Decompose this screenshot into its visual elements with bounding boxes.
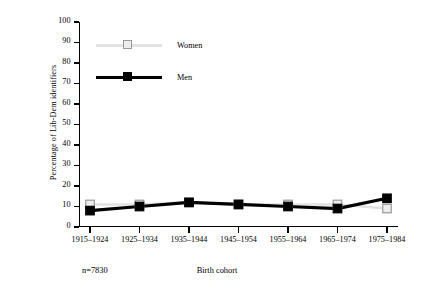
x-tick-label: 1925–1934 [121, 235, 158, 244]
x-tick [89, 227, 90, 233]
data-point-men [383, 194, 392, 203]
y-tick-label: 10 [62, 199, 70, 211]
x-tick-label: 1935–1944 [171, 235, 208, 244]
data-point-men [86, 206, 95, 215]
x-tick-label: 1975–1984 [369, 235, 406, 244]
x-tick [238, 227, 239, 233]
y-tick-label: 50 [62, 117, 70, 129]
x-tick-label: 1955–1964 [270, 235, 307, 244]
legend-label-men: Men [177, 73, 192, 82]
filled-square-icon [123, 72, 132, 81]
x-tick [139, 227, 140, 233]
data-point-men [333, 204, 342, 213]
legend-key-women [96, 38, 162, 52]
x-tick-label: 1915–1924 [72, 235, 109, 244]
chart-container: Percentage of Lib-Dem identifiers 010203… [0, 0, 434, 293]
data-point-men [135, 202, 144, 211]
data-point-men [284, 202, 293, 211]
y-tick-label: 100 [58, 15, 70, 27]
y-tick-label: 20 [62, 179, 70, 191]
legend-key-men [96, 70, 162, 84]
legend-label-women: Women [177, 41, 202, 50]
data-point-men [185, 198, 194, 207]
open-square-icon [123, 40, 132, 49]
y-tick-label: 0 [66, 220, 70, 232]
x-tick [287, 227, 288, 233]
y-tick-label: 30 [62, 158, 70, 170]
y-axis-title: Percentage of Lib-Dem identifiers [49, 13, 58, 233]
x-tick [337, 227, 338, 233]
x-tick [188, 227, 189, 233]
y-tick-label: 60 [62, 97, 70, 109]
y-tick-label: 40 [62, 138, 70, 150]
legend: Women Men [96, 32, 276, 88]
x-tick [386, 227, 387, 233]
x-tick-label: 1965–1974 [319, 235, 356, 244]
legend-item-men: Men [96, 70, 192, 84]
x-axis-title: Birth cohort [0, 266, 434, 275]
data-point-men [234, 200, 243, 209]
data-point-women [383, 204, 392, 213]
y-tick-label: 70 [62, 76, 70, 88]
y-tick-label: 90 [62, 35, 70, 47]
legend-item-women: Women [96, 38, 202, 52]
y-tick-label: 80 [62, 56, 70, 68]
x-tick-label: 1945–1954 [220, 235, 257, 244]
